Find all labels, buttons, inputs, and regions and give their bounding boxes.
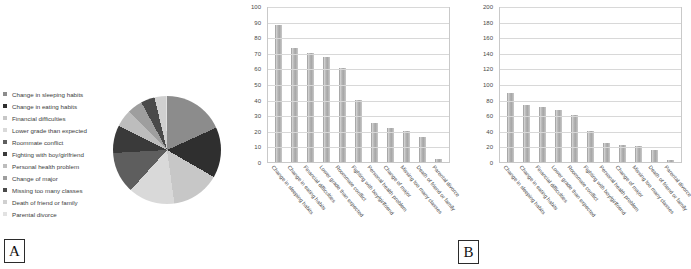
x-axis-labels-panel-c: Change in sleeping habitsChange in eatin… [499,164,682,264]
gridline [500,116,681,117]
legend-item-label: Financial difficulties [12,115,66,122]
bar [435,159,442,162]
bar [603,143,610,163]
y-axis-tick-label: 100 [467,82,496,88]
legend-item: Fighting with boy/girlfriend [3,148,111,160]
legend-swatch-icon [3,92,7,96]
pie-chart [113,96,221,204]
gridline [500,132,681,133]
legend-item-label: Lower grade than expected [12,127,87,134]
gridline [268,7,449,8]
pie-chart-wrapper [113,96,221,204]
y-axis-tick-label: 20 [235,129,264,135]
y-axis-tick-label: 0 [235,160,264,166]
gridline [500,69,681,70]
legend-item: Change in sleeping habits [3,88,111,100]
bar [371,123,378,162]
bar [323,57,330,162]
gridline [268,116,449,117]
y-axis-tick-label: 60 [235,66,264,72]
gridline [268,23,449,24]
bar [275,25,282,162]
legend-item-label: Fighting with boy/girlfriend [12,151,84,158]
gridline [500,7,681,8]
bar [355,100,362,162]
bar [507,93,514,162]
bar [555,110,562,162]
gridline [500,101,681,102]
bar [387,128,394,162]
y-axis-tick-label: 50 [235,82,264,88]
panel-b-bar-chart: 0102030405060708090100 Change in sleepin… [228,0,460,269]
legend-swatch-icon [3,212,7,216]
x-axis-labels-panel-b: Change in sleeping habitsChange in eatin… [267,164,450,264]
legend-item: Parental divorce [3,208,111,220]
bar [635,146,642,162]
legend-item-label: Parental divorce [12,211,57,218]
gridline [500,23,681,24]
y-axis-tick-label: 140 [467,51,496,57]
plot-area-panel-b [267,7,450,163]
gridline [268,132,449,133]
legend-item: Death of friend or family [3,196,111,208]
gridline [500,85,681,86]
legend-item: Financial difficulties [3,112,111,124]
gridline [268,101,449,102]
bar [651,150,658,162]
bar [667,160,674,162]
legend-item-label: Personal health problem [12,163,79,170]
legend-swatch-icon [3,128,7,132]
y-axis-tick-label: 70 [235,51,264,57]
bar [291,48,298,162]
plot-area-panel-c [499,7,682,163]
y-axis-tick-label: 40 [235,98,264,104]
y-axis-tick-label: 60 [467,113,496,119]
legend-item-label: Change of major [12,175,58,182]
y-axis-tick-label: 160 [467,35,496,41]
legend-item: Roommate conflict [3,136,111,148]
legend-item-label: Death of friend or family [12,199,78,206]
bar [571,115,578,162]
y-axis-panel-c: 020406080100120140160180200 [466,7,496,163]
y-axis-tick-label: 0 [467,160,496,166]
y-axis-tick-label: 30 [235,113,264,119]
gridline [268,147,449,148]
legend-item: Missing too many classes [3,184,111,196]
legend-item-label: Change in eating habits [12,103,77,110]
y-axis-tick-label: 90 [235,20,264,26]
gridline [268,69,449,70]
y-axis-tick-label: 120 [467,66,496,72]
legend-swatch-icon [3,116,7,120]
legend-swatch-icon [3,200,7,204]
legend-item: Personal health problem [3,160,111,172]
legend-item: Change of major [3,172,111,184]
y-axis-tick-label: 40 [467,129,496,135]
gridline [500,38,681,39]
y-axis-tick-label: 180 [467,20,496,26]
legend-swatch-icon [3,104,7,108]
legend-item-label: Roommate conflict [12,139,63,146]
y-axis-tick-label: 20 [467,144,496,150]
bar [419,137,426,162]
legend-item: Change in eating habits [3,100,111,112]
gridline [268,38,449,39]
y-axis-tick-label: 10 [235,144,264,150]
y-axis-tick-label: 200 [467,4,496,10]
legend-item: Lower grade than expected [3,124,111,136]
legend-item-label: Change in sleeping habits [12,91,83,98]
gridline [500,54,681,55]
y-axis-tick-label: 80 [467,98,496,104]
gridline [500,147,681,148]
panel-a-pie-chart: Change in sleeping habitsChange in eatin… [0,0,228,269]
bar [523,105,530,162]
y-axis-panel-b: 0102030405060708090100 [234,7,264,163]
gridline [268,54,449,55]
legend-swatch-icon [3,164,7,168]
legend-swatch-icon [3,188,7,192]
legend-swatch-icon [3,152,7,156]
legend-swatch-icon [3,140,7,144]
panel-label-a: A [4,239,25,263]
gridline [268,85,449,86]
panel-c-bar-chart: 020406080100120140160180200 Change in sl… [460,0,691,269]
pie-legend: Change in sleeping habitsChange in eatin… [3,88,111,220]
